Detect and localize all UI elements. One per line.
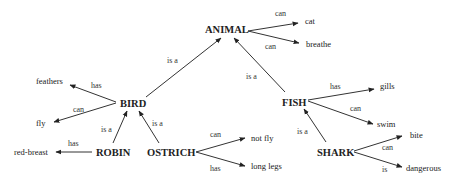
label-ostrich-bird: is a	[152, 119, 163, 128]
leaf-gills: gills	[380, 81, 395, 91]
label-shark-dangerous: is	[382, 165, 387, 174]
label-robin-bird: is a	[101, 125, 112, 134]
leaf-not-fly: not fly	[251, 133, 274, 143]
edge-shark-fish	[304, 109, 326, 142]
node-ostrich: OSTRICH	[147, 147, 195, 158]
semantic-network-diagram: can can is a is a has can is a is a has …	[0, 0, 455, 182]
leaf-red-breast: red-breast	[14, 147, 49, 157]
label-bird-feathers: has	[91, 81, 102, 90]
edge-bird-animal	[146, 38, 221, 97]
node-robin: ROBIN	[96, 147, 131, 158]
label-shark-fish: is a	[297, 127, 308, 136]
edge-bird-fly	[54, 103, 116, 122]
edge-shark-bite	[354, 136, 402, 151]
leaf-dangerous: dangerous	[406, 163, 441, 173]
label-fish-swim: can	[350, 104, 361, 113]
property-leaves: cat breathe feathers fly red-breast not …	[14, 16, 441, 173]
node-shark: SHARK	[317, 147, 355, 158]
edge-fish-animal	[234, 38, 285, 92]
label-shark-bite: can	[382, 143, 393, 152]
leaf-feathers: feathers	[36, 76, 63, 86]
leaf-breathe: breathe	[306, 39, 331, 49]
edge-fish-gills	[308, 89, 374, 100]
edge-fish-swim	[308, 101, 373, 124]
edge-animal-cat	[248, 23, 298, 31]
label-bird-animal: is a	[167, 56, 178, 65]
label-ostrich-notfly: can	[210, 130, 221, 139]
leaf-bite: bite	[410, 130, 423, 140]
label-bird-fly: can	[73, 105, 84, 114]
node-animal: ANIMAL	[205, 24, 249, 35]
edge-robin-bird	[113, 111, 127, 143]
label-ostrich-longlegs: has	[210, 164, 221, 173]
edges	[54, 23, 402, 167]
label-robin-redbreast: has	[68, 139, 79, 148]
label-fish-gills: has	[330, 82, 341, 91]
node-fish: FISH	[282, 97, 307, 108]
leaf-cat: cat	[305, 16, 316, 26]
label-animal-breathe: can	[265, 42, 276, 51]
edge-shark-dangerous	[354, 152, 402, 167]
node-bird: BIRD	[120, 98, 147, 109]
leaf-long-legs: long legs	[251, 161, 282, 171]
leaf-swim: swim	[377, 119, 396, 129]
edge-ostrich-notfly	[196, 138, 245, 152]
label-fish-animal: is a	[246, 72, 257, 81]
leaf-fly: fly	[36, 118, 46, 128]
label-animal-cat: can	[275, 9, 286, 18]
